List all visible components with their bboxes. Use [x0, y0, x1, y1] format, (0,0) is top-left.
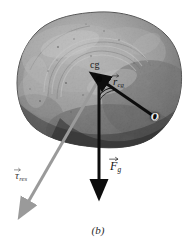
vector-subscript: g [118, 166, 122, 173]
figure-caption: (b) [0, 224, 196, 236]
vector-label-r-cg: r cg [113, 76, 124, 89]
pivot-o-label: O [151, 112, 159, 123]
vector-base-glyph: τ [15, 169, 19, 181]
vector-symbol-f: F [110, 160, 117, 172]
vector-symbol-r: r [113, 76, 117, 87]
vector-base-glyph: r [113, 75, 117, 87]
physics-figure-torque-diagram: cg O r cg F g [0, 0, 196, 246]
vector-label-tau-res: τ res [15, 170, 27, 183]
vector-subscript: cg [117, 82, 123, 89]
vector-symbol-tau: τ [15, 170, 19, 181]
vector-subscript: res [19, 176, 27, 183]
vector-base-glyph: F [110, 159, 117, 173]
cg-point-marker [96, 76, 102, 82]
vector-label-f-g: F g [110, 160, 121, 173]
figure-canvas [0, 0, 196, 246]
cg-label: cg [90, 60, 99, 70]
